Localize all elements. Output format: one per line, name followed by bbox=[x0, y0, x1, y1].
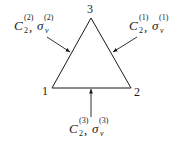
axis-subscript: 2 bbox=[79, 129, 83, 138]
separator: , bbox=[29, 19, 32, 34]
axis-symbol: C bbox=[14, 18, 23, 33]
symmetry-label-bottom: C (3) 2 , σ (3) v bbox=[69, 116, 109, 138]
vertex-label-3: 3 bbox=[87, 2, 93, 16]
plane-superscript: (1) bbox=[159, 13, 169, 22]
vertex-label-2: 2 bbox=[134, 85, 140, 99]
separator: , bbox=[144, 19, 147, 34]
vertex-label-1: 1 bbox=[42, 84, 48, 98]
plane-symbol: σ bbox=[37, 18, 44, 33]
plane-superscript: (3) bbox=[99, 116, 109, 125]
plane-superscript: (2) bbox=[44, 13, 54, 22]
arrow-top-left bbox=[47, 37, 70, 52]
arrow-top-right bbox=[113, 37, 137, 52]
plane-symbol: σ bbox=[152, 18, 159, 33]
axis-subscript: 2 bbox=[24, 26, 28, 35]
symmetry-label-top-left: C (2) 2 , σ (2) v bbox=[14, 13, 54, 35]
axis-symbol: C bbox=[129, 18, 138, 33]
axis-subscript: 2 bbox=[139, 26, 143, 35]
plane-symbol: σ bbox=[92, 121, 99, 136]
axis-symbol: C bbox=[69, 121, 78, 136]
plane-subscript: v bbox=[45, 26, 49, 35]
equilateral-triangle bbox=[52, 18, 131, 88]
plane-subscript: v bbox=[100, 129, 104, 138]
separator: , bbox=[84, 122, 87, 137]
triangle-symmetry-diagram: 3 1 2 C (2) 2 , σ (2) v C (1) 2 , σ (1) … bbox=[0, 0, 181, 144]
plane-subscript: v bbox=[160, 26, 164, 35]
symmetry-label-top-right: C (1) 2 , σ (1) v bbox=[129, 13, 169, 35]
